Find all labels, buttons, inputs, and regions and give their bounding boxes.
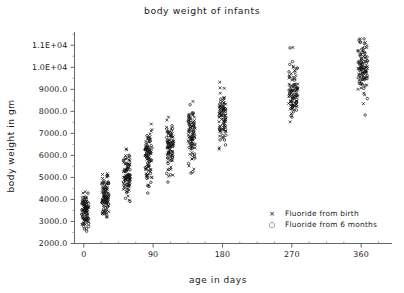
x-tick-label: 270 <box>284 250 300 259</box>
legend-glyph-0: × <box>269 209 275 218</box>
y-tick-label: 1.1E+04 <box>32 41 68 50</box>
x-axis-title: age in days <box>189 275 247 285</box>
y-tick-label: 3000.0 <box>39 217 68 226</box>
y-axis-title: body weight in gm <box>6 99 16 192</box>
legend-label-0: Fluoride from birth <box>285 209 359 218</box>
legend-label-1: Fluoride from 6 months <box>285 220 377 229</box>
chart-title: body weight of infants <box>144 5 260 16</box>
y-tick-label: 4000.0 <box>39 195 68 204</box>
y-tick-label: 1.0E+04 <box>32 63 68 72</box>
y-tick-label: 7000.0 <box>39 129 68 138</box>
x-tick-label: 360 <box>353 250 369 259</box>
y-tick-label: 8000.0 <box>39 107 68 116</box>
y-tick-label: 9000.0 <box>39 85 68 94</box>
y-tick-label: 6000.0 <box>39 151 68 160</box>
y-tick-label: 2000.0 <box>39 239 68 248</box>
x-tick-label: 180 <box>215 250 231 259</box>
chart-figure: body weight of infants body weight in gm… <box>0 0 404 293</box>
y-tick-label: 5000.0 <box>39 173 68 182</box>
legend-glyph-1: ○ <box>269 220 275 229</box>
x-tick-label: 90 <box>148 250 158 259</box>
scatter-plot: body weight of infants body weight in gm… <box>0 0 404 293</box>
x-tick-label: 0 <box>81 250 86 259</box>
